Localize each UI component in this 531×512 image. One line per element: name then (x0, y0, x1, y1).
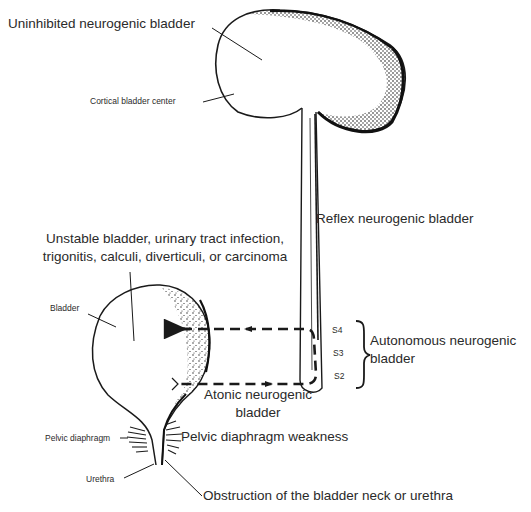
arrow-mid-upper (244, 326, 252, 332)
leader-urethra (124, 464, 154, 478)
label-autonomous-line1: Autonomous neurogenic (370, 333, 516, 349)
label-pelvic-weakness: Pelvic diaphragm weakness (181, 429, 348, 445)
label-pelvic-diaphragm: Pelvic diaphragm (45, 433, 110, 443)
label-s4: S4 (332, 325, 342, 335)
neurogenic-bladder-diagram: Uninhibited neurogenic bladder Cortical … (0, 0, 531, 512)
label-s2: S2 (334, 371, 344, 381)
label-autonomous-line2: bladder (370, 351, 415, 367)
leader-obstruction (165, 460, 202, 496)
sacral-brace (356, 321, 370, 388)
label-obstruction: Obstruction of the bladder neck or ureth… (203, 488, 453, 504)
label-s3: S3 (333, 348, 343, 358)
label-unstable-line1: Unstable bladder, urinary tract infectio… (10, 231, 320, 247)
label-unstable-line2: trigonitis, calculi, diverticuli, or car… (10, 249, 320, 265)
label-reflex: Reflex neurogenic bladder (316, 211, 474, 227)
label-atonic-line1: Atonic neurogenic (196, 387, 320, 403)
label-uninhibited: Uninhibited neurogenic bladder (8, 16, 195, 32)
label-cortical-center: Cortical bladder center (90, 96, 176, 106)
label-urethra: Urethra (86, 474, 114, 484)
label-atonic-line2: bladder (196, 405, 320, 421)
label-bladder: Bladder (50, 303, 79, 313)
